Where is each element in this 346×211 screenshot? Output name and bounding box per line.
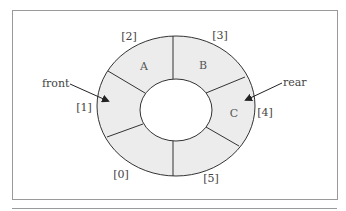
slot-5-index: [5]: [203, 172, 219, 185]
slot-1-index: [1]: [76, 101, 92, 114]
rear-label: rear: [283, 76, 307, 89]
slot-0-index: [0]: [113, 168, 129, 181]
slot-2-index: [2]: [121, 30, 137, 43]
queue-ring: [97, 36, 255, 176]
circular-queue-diagram: A B C [2] [3] [1] [4] [0] [5] front rear: [0, 0, 346, 211]
slot-3-index: [3]: [212, 29, 228, 42]
front-label: front: [42, 77, 70, 90]
slot-2-value: A: [139, 60, 149, 73]
slot-4-value: C: [230, 107, 238, 120]
slot-4-index: [4]: [257, 106, 273, 119]
slot-3-value: B: [199, 59, 207, 72]
